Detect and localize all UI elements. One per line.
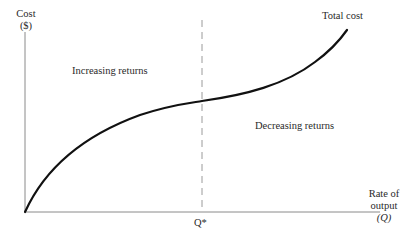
increasing-returns-label: Increasing returns: [72, 65, 148, 77]
x-axis-label: Rate of output (Q): [364, 188, 404, 224]
y-axis-label-line1: Cost: [14, 8, 38, 20]
y-axis-label: Cost ($): [14, 8, 38, 32]
x-axis-label-line3: (Q): [364, 212, 404, 224]
q-star-label: Q*: [194, 217, 207, 229]
decreasing-returns-label: Decreasing returns: [255, 120, 334, 132]
total-cost-label: Total cost: [322, 10, 363, 22]
y-axis-label-line2: ($): [14, 20, 38, 32]
chart-canvas: [0, 0, 412, 236]
x-axis-label-line2: output: [364, 200, 404, 212]
x-axis-label-line1: Rate of: [364, 188, 404, 200]
